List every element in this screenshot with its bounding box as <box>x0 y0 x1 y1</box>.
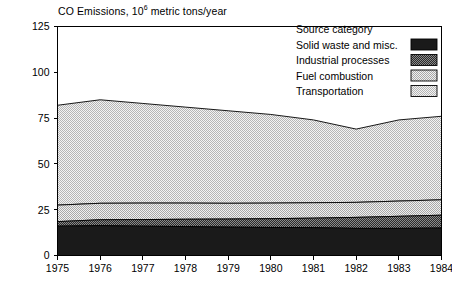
legend-swatch <box>411 55 437 66</box>
legend-item-label: Fuel combustion <box>296 70 373 82</box>
plot-area-series <box>58 100 442 256</box>
legend: Source categorySolid waste and misc.Indu… <box>296 23 437 97</box>
y-tick-label: 0 <box>44 249 50 261</box>
x-tick-label: 1984 <box>430 262 452 274</box>
x-axis-labels: 1975197619771978197919801981198219831984 <box>46 262 452 274</box>
x-tick-label: 1977 <box>131 262 155 274</box>
x-tick-label: 1978 <box>174 262 198 274</box>
area-solid-waste <box>58 226 442 256</box>
legend-swatch <box>411 70 437 81</box>
x-tick-label: 1983 <box>387 262 411 274</box>
legend-item-label: Industrial processes <box>296 54 389 66</box>
chart-container: CO Emissions, 106 metric tons/year <box>0 0 452 287</box>
area-transportation <box>58 100 442 205</box>
legend-swatch <box>411 86 437 97</box>
chart-svg: 0255075100125 19751976197719781979198019… <box>0 0 452 287</box>
y-tick-label: 75 <box>38 112 50 124</box>
x-tick-label: 1980 <box>259 262 283 274</box>
x-tick-label: 1976 <box>88 262 112 274</box>
y-tick-label: 25 <box>38 204 50 216</box>
legend-swatch <box>411 39 437 50</box>
y-axis-labels: 0255075100125 <box>32 20 50 261</box>
x-tick-label: 1979 <box>216 262 240 274</box>
y-tick-label: 125 <box>32 20 50 32</box>
legend-item-label: Transportation <box>296 85 363 97</box>
x-tick-label: 1982 <box>344 262 368 274</box>
y-tick-label: 50 <box>38 158 50 170</box>
legend-title: Source category <box>296 23 373 35</box>
x-tick-label: 1981 <box>302 262 326 274</box>
legend-item-label: Solid waste and misc. <box>296 39 398 51</box>
y-tick-label: 100 <box>32 66 50 78</box>
x-tick-label: 1975 <box>46 262 70 274</box>
